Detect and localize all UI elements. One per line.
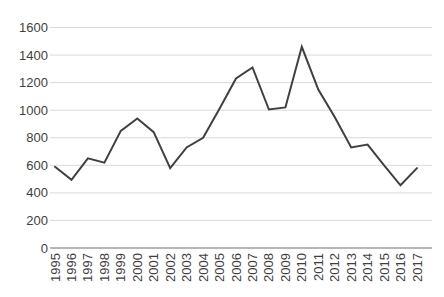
x-axis-tick-label: 2017 bbox=[410, 253, 425, 282]
y-axis-tick-label: 200 bbox=[26, 213, 48, 228]
x-axis-tick-label: 1997 bbox=[80, 253, 95, 282]
y-axis-tick-label: 1600 bbox=[19, 20, 48, 35]
y-axis-tick-label: 400 bbox=[26, 185, 48, 200]
y-axis-tick-label: 1200 bbox=[19, 75, 48, 90]
x-axis-tick-label: 2000 bbox=[130, 253, 145, 282]
y-axis-labels-group: 02004006008001000120014001600 bbox=[19, 20, 48, 256]
x-axis-tick-label: 2016 bbox=[393, 253, 408, 282]
x-axis-tick-label: 1999 bbox=[113, 253, 128, 282]
x-axis-tick-label: 2012 bbox=[327, 253, 342, 282]
x-axis-tick-label: 2002 bbox=[163, 253, 178, 282]
x-axis-tick-label: 2013 bbox=[344, 253, 359, 282]
x-axis-tick-label: 2006 bbox=[229, 253, 244, 282]
x-axis-tick-label: 2001 bbox=[146, 253, 161, 282]
chart-canvas: 0200400600800100012001400160019951996199… bbox=[0, 0, 444, 297]
x-axis-tick-label: 1996 bbox=[64, 253, 79, 282]
x-axis-tick-label: 1995 bbox=[48, 253, 63, 282]
line-chart: 0200400600800100012001400160019951996199… bbox=[0, 0, 444, 297]
x-axis-tick-label: 2009 bbox=[278, 253, 293, 282]
x-axis-tick-label: 2014 bbox=[360, 253, 375, 282]
x-axis-tick-label: 1998 bbox=[97, 253, 112, 282]
x-axis-tick-label: 2011 bbox=[311, 253, 326, 281]
y-axis-tick-label: 1000 bbox=[19, 103, 48, 118]
x-axis-tick-label: 2004 bbox=[196, 253, 211, 282]
x-axis-labels-group: 1995199619971998199920002001200220032004… bbox=[48, 253, 425, 282]
y-axis-tick-label: 800 bbox=[26, 130, 48, 145]
x-axis-tick-label: 2007 bbox=[245, 253, 260, 282]
gridlines-group bbox=[50, 28, 432, 221]
y-axis-tick-label: 1400 bbox=[19, 48, 48, 63]
x-axis-tick-label: 2015 bbox=[377, 253, 392, 282]
x-axis-tick-label: 2008 bbox=[261, 253, 276, 282]
x-axis-tick-label: 2005 bbox=[212, 253, 227, 282]
y-axis-tick-label: 600 bbox=[26, 158, 48, 173]
data-series-line bbox=[55, 47, 417, 186]
x-axis-tick-label: 2010 bbox=[294, 253, 309, 282]
x-axis-tick-label: 2003 bbox=[179, 253, 194, 282]
